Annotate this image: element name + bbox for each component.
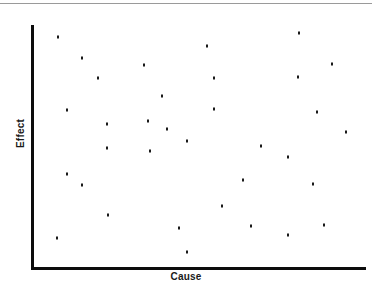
data-point [287,233,289,236]
data-point [323,223,325,226]
data-point [297,76,299,79]
data-point [81,57,83,60]
data-point [147,119,149,122]
data-point [66,109,68,112]
data-point [106,122,108,125]
data-point [186,139,188,142]
data-point [66,172,68,175]
data-point [149,150,151,153]
data-point [166,128,168,131]
data-point [331,62,333,65]
data-point [97,76,99,79]
data-point [186,250,188,253]
data-point [213,108,215,111]
data-point [206,44,208,47]
data-point [161,94,163,97]
data-point [250,224,252,227]
data-point [213,76,215,79]
data-point [316,110,318,113]
plot-area [33,25,363,268]
data-point [57,35,59,38]
data-point [260,145,262,148]
top-divider-rule [0,3,372,4]
data-point [143,64,145,67]
data-point [106,146,108,149]
data-point [56,237,58,240]
data-point [298,32,300,35]
data-point [312,182,314,185]
x-axis-label: Cause [0,271,372,282]
data-point [242,179,244,182]
y-axis-label: Effect [15,104,26,164]
data-point [178,226,180,229]
data-point [287,155,289,158]
data-point [345,130,347,133]
data-point [81,183,83,186]
data-point [221,205,223,208]
scatter-plot-figure: Effect Cause [0,0,372,294]
data-point [107,214,109,217]
